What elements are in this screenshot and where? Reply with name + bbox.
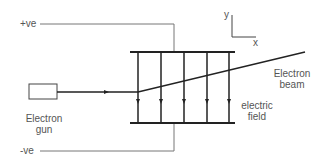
electric-field-label-line1: electric <box>237 100 277 111</box>
positive-terminal-label: +ve <box>20 18 36 29</box>
electric-field-label: electric field <box>237 100 277 122</box>
electron-beam-label-line1: Electron <box>270 68 314 79</box>
electron-gun-label-line2: gun <box>24 124 64 135</box>
electron-gun-label: Electron gun <box>24 113 64 135</box>
axis-x-label: x <box>253 37 258 48</box>
electron-beam-label-line2: beam <box>270 79 314 90</box>
negative-terminal-label: -ve <box>20 145 34 156</box>
axes-icon <box>232 15 256 37</box>
electron-beam <box>57 52 305 92</box>
axis-y-label: y <box>224 9 229 20</box>
positive-wire <box>40 24 174 52</box>
electron-beam-label: Electron beam <box>270 68 314 90</box>
beam-arrow-icon <box>104 90 109 94</box>
electron-gun-label-line1: Electron <box>24 113 64 124</box>
field-lines <box>138 52 229 123</box>
electric-field-label-line2: field <box>237 111 277 122</box>
electron-gun-box <box>29 84 57 99</box>
